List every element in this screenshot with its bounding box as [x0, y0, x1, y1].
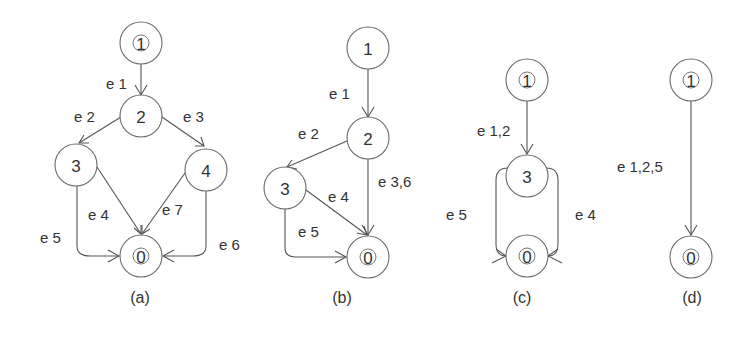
node-a-1: 1	[120, 22, 162, 64]
node-label: 0	[522, 248, 531, 267]
edge-label-b-e1: e 1	[329, 85, 350, 102]
node-label: 2	[363, 130, 372, 149]
node-d-1: 1	[670, 59, 712, 101]
edge-label-c-e5: e 5	[446, 206, 467, 223]
caption-b: (b)	[332, 289, 352, 306]
node-c-3: 3	[506, 155, 548, 197]
node-label: 1	[363, 40, 372, 59]
panel-a: 1 2 3 4 0 e 1 e 2 e 3 e 4 e 5 e 6 e 7 (a…	[40, 22, 240, 306]
edge-a-3-0-e4	[97, 167, 141, 234]
graph-reduction-figure: 1 2 3 4 0 e 1 e 2 e 3 e 4 e 5 e 6 e 7 (a…	[0, 0, 749, 337]
node-d-0: 0	[670, 236, 712, 278]
node-label: 4	[201, 162, 210, 181]
node-b-1: 1	[347, 27, 389, 69]
panel-c: 1 3 0 e 1,2 e 5 e 4 (c)	[446, 59, 596, 306]
panel-b: 1 2 3 0 e 1 e 2 e 3,6 e 4 e 5 (b)	[264, 27, 411, 306]
node-a-4: 4	[185, 149, 227, 191]
node-label: 3	[522, 168, 531, 187]
node-b-3: 3	[264, 167, 306, 209]
caption-a: (a)	[130, 289, 150, 306]
edge-b-2-3	[287, 141, 347, 167]
edge-label-a-e7: e 7	[162, 201, 183, 218]
edge-label-b-e36: e 3,6	[378, 173, 411, 190]
node-label: 1	[686, 72, 695, 91]
node-label: 2	[136, 108, 145, 127]
edge-label-c-e12: e 1,2	[477, 122, 510, 139]
panel-d: 1 0 e 1,2,5 (d)	[617, 59, 712, 306]
caption-d: (d)	[682, 289, 702, 306]
node-b-2: 2	[347, 117, 389, 159]
node-label: 1	[136, 35, 145, 54]
node-label: 1	[522, 72, 531, 91]
node-a-3: 3	[55, 144, 97, 186]
edge-label-b-e2: e 2	[298, 125, 319, 142]
node-label: 0	[686, 249, 695, 268]
edge-label-a-e5: e 5	[40, 229, 61, 246]
node-a-0: 0	[120, 235, 162, 277]
arrowhead	[142, 225, 150, 234]
edge-label-a-e2: e 2	[74, 108, 95, 125]
node-b-0: 0	[347, 236, 389, 278]
node-label: 0	[136, 248, 145, 267]
edge-label-a-e3: e 3	[183, 108, 204, 125]
node-label: 0	[363, 249, 372, 268]
edge-label-c-e4: e 4	[575, 206, 596, 223]
edge-label-d-e125: e 1,2,5	[617, 158, 663, 175]
edge-label-b-e5: e 5	[298, 223, 319, 240]
edge-label-a-e1: e 1	[106, 75, 127, 92]
node-label: 3	[71, 157, 80, 176]
caption-c: (c)	[513, 289, 532, 306]
node-a-2: 2	[120, 95, 162, 137]
edge-label-b-e4: e 4	[328, 188, 349, 205]
node-c-0: 0	[506, 235, 548, 277]
edge-label-a-e6: e 6	[219, 236, 240, 253]
edge-label-a-e4: e 4	[88, 206, 109, 223]
node-c-1: 1	[506, 59, 548, 101]
node-label: 3	[280, 180, 289, 199]
